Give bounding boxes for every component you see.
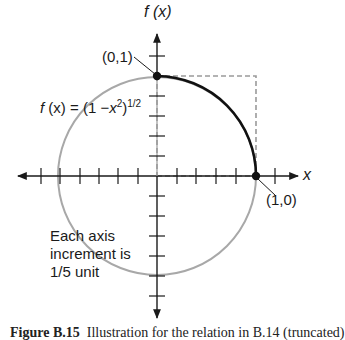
figure-caption: Figure B.15 Illustration for the relatio… [10,326,345,340]
leader-line-0-1 [134,57,155,74]
point-1-0 [252,172,260,180]
point-label-0-1: (0,1) [102,49,133,64]
y-axis-label-x: (x) [153,3,172,20]
x-axis-label: x [303,167,311,183]
caption-figure-number: Figure B.15 [10,325,80,340]
axis-increment-note: Each axis increment is 1/5 unit [50,227,140,281]
point-0-1 [153,72,161,80]
y-axis-label-f: f [144,3,148,20]
function-arc [157,76,256,176]
function-label-x: x [109,99,117,116]
y-axis-label: f (x) [144,4,172,20]
point-label-1-0: (1,0) [266,192,297,207]
function-label-exponent: 1/2 [127,98,141,109]
function-label: f (x) = (1 −x2)1/2 [40,99,141,115]
caption-text: Illustration for the relation in B.14 (t… [87,325,345,340]
function-label-body: (x) = (1 − [44,99,109,116]
